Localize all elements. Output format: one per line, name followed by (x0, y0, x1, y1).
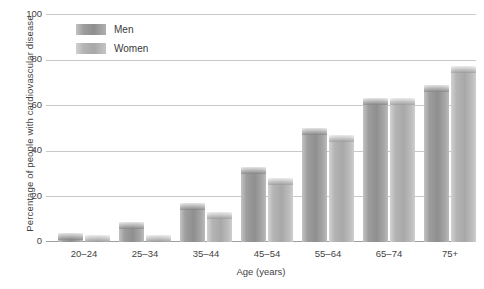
bar-cap (451, 66, 476, 73)
y-tick-label: 60 (8, 100, 42, 110)
bar-cap (363, 98, 388, 105)
x-tick-label-55-64: 55–64 (295, 248, 361, 259)
bar-cap (390, 98, 415, 105)
bar-women-20-24 (85, 235, 110, 242)
bar-women-75-plus (451, 66, 476, 242)
bar-men-65-74 (363, 98, 388, 242)
y-tick-label: 100 (8, 9, 42, 19)
bar-group-35-44 (180, 14, 232, 242)
y-tick-label: 20 (8, 191, 42, 201)
bar-cap (424, 85, 449, 92)
legend-item-women: Women (76, 41, 148, 56)
x-tick-label-75-plus: 75+ (417, 248, 483, 259)
bar-group-55-64 (302, 14, 354, 242)
x-tick-label-65-74: 65–74 (356, 248, 422, 259)
bar-cap (241, 167, 266, 174)
x-tick-label-25-34: 25–34 (112, 248, 178, 259)
bar-men-75-plus (424, 85, 449, 242)
y-tick-label: 40 (8, 145, 42, 155)
legend-swatch-women-icon (76, 43, 106, 54)
x-tick-label-45-54: 45–54 (234, 248, 300, 259)
bar-men-25-34 (119, 222, 144, 243)
legend-label-women: Women (114, 43, 148, 54)
bar-cap (329, 135, 354, 142)
y-tick-label: 0 (8, 236, 42, 246)
x-axis-title: Age (years) (46, 266, 476, 277)
bar-cap (58, 233, 83, 240)
x-axis-tick-labels: 20–24 25–34 35–44 45–54 55–64 65–74 75+ (46, 248, 476, 262)
bar-chart: Percentage of people with cardiovascular… (0, 0, 484, 289)
bar-men-45-54 (241, 167, 266, 242)
x-tick-label-35-44: 35–44 (173, 248, 239, 259)
legend-item-men: Men (76, 22, 148, 37)
bar-group-75-plus (424, 14, 476, 242)
bar-cap (146, 235, 171, 242)
bar-cap (268, 178, 293, 185)
bar-women-25-34 (146, 235, 171, 242)
bar-women-35-44 (207, 212, 232, 242)
bar-men-35-44 (180, 203, 205, 242)
bar-women-55-64 (329, 135, 354, 242)
legend: Men Women (76, 22, 148, 60)
bar-men-20-24 (58, 233, 83, 242)
bar-group-45-54 (241, 14, 293, 242)
bar-cap (302, 128, 327, 135)
legend-swatch-men-icon (76, 24, 106, 35)
bar-cap (207, 212, 232, 219)
bar-women-65-74 (390, 98, 415, 242)
bar-women-45-54 (268, 178, 293, 242)
bar-cap (180, 203, 205, 210)
bar-cap (119, 222, 144, 229)
bar-men-55-64 (302, 128, 327, 242)
x-tick-label-20-24: 20–24 (51, 248, 117, 259)
bar-cap (85, 235, 110, 242)
y-axis-tick-labels: 100 80 60 40 20 0 (8, 14, 42, 242)
legend-label-men: Men (114, 24, 133, 35)
bar-group-65-74 (363, 14, 415, 242)
y-tick-label: 80 (8, 54, 42, 64)
